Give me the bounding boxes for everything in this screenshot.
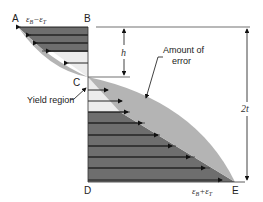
h-label: h [121, 47, 126, 58]
strain-top-label: εB−εT [26, 14, 47, 25]
yield-region-label: Yield region [27, 95, 74, 105]
point-e-label: E [232, 185, 239, 196]
point-b-label: B [84, 13, 91, 24]
point-c-label: C [73, 77, 80, 88]
error-leader-line [146, 57, 163, 98]
bending-strain-diagram: h 2t A B C D E εB−εT εB+εT Amount of err… [0, 0, 263, 202]
error-annotation-line1: Amount of [163, 45, 205, 55]
point-d-label: D [84, 185, 91, 196]
point-a-label: A [12, 13, 19, 24]
error-annotation-line2: error [172, 56, 191, 66]
strain-bottom-label: εB+εT [192, 186, 213, 197]
2t-label: 2t [241, 103, 249, 114]
